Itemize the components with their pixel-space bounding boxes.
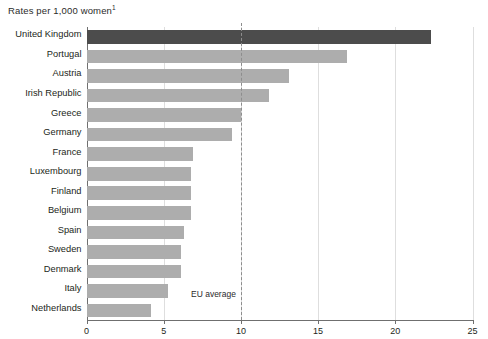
bar-row: Spain [87,222,473,242]
category-label: Greece [51,108,87,118]
bar-row: Irish Republic [87,86,473,106]
eu-average-label: EU average [191,289,241,299]
bar [87,245,181,259]
x-tick [87,320,88,324]
bar [87,108,241,122]
bar-row: Finland [87,183,473,203]
x-tick-label: 0 [84,326,89,336]
bar [87,226,184,240]
bar [87,69,289,83]
bar [87,206,192,220]
plot-area: United KingdomPortugalAustriaIrish Repub… [87,27,473,320]
bar-row: France [87,144,473,164]
category-label: Germany [43,127,86,137]
bar [87,304,152,318]
category-label: Finland [51,186,87,196]
x-tick-label: 20 [390,326,400,336]
category-label: France [53,147,87,157]
category-label: Netherlands [31,303,86,313]
gridline-25 [473,27,474,320]
bar [87,147,194,161]
bar-chart: Rates per 1,000 women1 United KingdomPor… [0,0,488,339]
x-tick [395,320,396,324]
bar-row: Denmark [87,261,473,281]
x-tick [473,320,474,324]
category-label: United Kingdom [15,29,86,39]
bar [87,50,348,64]
bar-row: Italy [87,281,473,301]
category-label: Denmark [44,264,87,274]
x-tick-label: 10 [236,326,246,336]
x-tick-label: 25 [467,326,477,336]
bar [87,265,181,279]
bar [87,128,232,142]
x-axis: 0510152025 [87,320,473,321]
bar-rows: United KingdomPortugalAustriaIrish Repub… [87,27,473,320]
category-label: Sweden [48,244,87,254]
x-tick-label: 5 [161,326,166,336]
x-tick [318,320,319,324]
chart-title: Rates per 1,000 women1 [8,5,116,16]
category-label: Austria [53,68,87,78]
bar [87,284,169,298]
eu-average-line [241,23,242,320]
bar [87,30,431,44]
x-tick [241,320,242,324]
bar-row: Germany [87,125,473,145]
bar-row: Luxembourg [87,164,473,184]
bar-row: Belgium [87,203,473,223]
category-label: Portugal [47,49,87,59]
bar-row: Greece [87,105,473,125]
bar-row: Portugal [87,47,473,67]
bar-row: Sweden [87,242,473,262]
bar-row: United Kingdom [87,27,473,47]
chart-title-footnote-marker: 1 [112,4,116,11]
bar-row: Netherlands [87,300,473,320]
bar-row: Austria [87,66,473,86]
chart-title-text: Rates per 1,000 women [8,5,112,16]
category-label: Belgium [48,205,87,215]
category-label: Italy [64,283,86,293]
x-tick-label: 15 [313,326,323,336]
x-tick [164,320,165,324]
bar [87,167,192,181]
bar [87,186,192,200]
category-label: Irish Republic [25,88,86,98]
category-label: Spain [58,225,87,235]
category-label: Luxembourg [30,166,87,176]
